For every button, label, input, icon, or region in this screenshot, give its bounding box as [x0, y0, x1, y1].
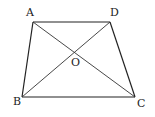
side-dc [110, 22, 135, 97]
label-o: O [71, 56, 80, 69]
label-a: A [25, 6, 35, 19]
side-ba [22, 22, 33, 97]
label-b: B [13, 95, 21, 108]
label-d: D [110, 6, 119, 19]
trapezoid-diagram: A D B C O [0, 0, 155, 117]
diagonal-bd [22, 22, 110, 97]
label-c: C [137, 97, 145, 110]
diagonal-ac [33, 22, 135, 97]
